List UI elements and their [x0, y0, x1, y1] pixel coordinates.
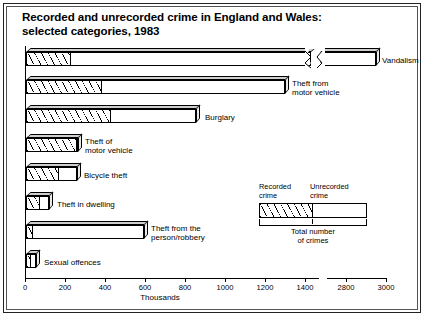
- x-tick-label-400: 400: [85, 283, 125, 292]
- plot-area: 0 200 400 600 800 1000 1200 1400 2800 30…: [0, 0, 427, 319]
- legend-swatch-box: [259, 203, 367, 218]
- x-tick-1000: [225, 278, 226, 282]
- label-line-2: person/robbery: [151, 233, 205, 242]
- bar-front-face: [26, 196, 49, 210]
- x-tick-1400: [305, 278, 306, 282]
- bar-label-bicycle-theft: Bicycle theft: [84, 171, 127, 180]
- bar-label-burglary: Burglary: [205, 113, 235, 122]
- segment-recorded: [27, 168, 59, 180]
- bar-front-face: [26, 52, 311, 66]
- segment-unrecorded: [33, 226, 143, 238]
- label-line-1: Theft from the: [151, 224, 201, 233]
- bar-front-face: [26, 254, 36, 268]
- bar-front-face: [26, 225, 144, 239]
- bar-theft-from-person-robbery: [26, 221, 144, 243]
- bar-vandalism-right: [320, 48, 376, 70]
- legend-label-recorded: Recorded crime: [259, 183, 307, 200]
- legend-total-brace: [259, 219, 367, 226]
- legend-recorded-line-2: crime: [259, 191, 277, 200]
- x-tick-600: [145, 278, 146, 282]
- x-axis-line-broken: [327, 278, 386, 279]
- x-tick-0: [25, 278, 26, 282]
- bar-theft-in-dwelling: [26, 192, 49, 214]
- segment-unrecorded: [111, 110, 195, 122]
- bar-label-theft-in-dwelling: Theft in dwelling: [57, 200, 115, 209]
- x-tick-400: [105, 278, 106, 282]
- x-tick-label-600: 600: [125, 283, 165, 292]
- legend-total-line-1: Total number: [291, 227, 335, 236]
- label-line-2: motor vehicle: [292, 88, 340, 97]
- label-line-1: Theft from: [292, 79, 328, 88]
- bar-right-face: [376, 47, 380, 66]
- bar-right-face: [144, 220, 148, 239]
- bar-label-theft-of-motor-vehicle: Theft of motor vehicle: [85, 137, 133, 156]
- x-tick-label-3000: 3000: [366, 283, 406, 292]
- x-tick-label-1400: 1400: [285, 283, 325, 292]
- x-tick-2800: [346, 278, 347, 282]
- legend-total-brace-tick: [312, 219, 313, 224]
- bar-right-face: [49, 191, 53, 210]
- segment-unrecorded: [40, 197, 48, 209]
- bar-bicycle-theft: [26, 163, 77, 185]
- segment-unrecorded: [102, 81, 284, 93]
- bar-label-sexual-offences: Sexual offences: [44, 258, 101, 267]
- x-tick-label-0: 0: [5, 283, 45, 292]
- segment-recorded: [27, 197, 40, 209]
- segment-recorded: [27, 139, 77, 151]
- bar-label-theft-from-person-robbery: Theft from the person/robbery: [151, 224, 205, 243]
- bar-front-face: [26, 80, 285, 94]
- x-tick-200: [65, 278, 66, 282]
- legend-label-unrecorded: Unrecorded crime: [310, 183, 366, 200]
- segment-unrecorded: [59, 168, 76, 180]
- legend-swatch-recorded: [260, 204, 313, 217]
- legend-swatch-unrecorded: [313, 204, 366, 217]
- bar-vandalism-left: [26, 48, 311, 70]
- x-tick-label-200: 200: [45, 283, 85, 292]
- bar-theft-from-motor-vehicle: [26, 76, 285, 98]
- segment-unrecorded: [71, 53, 310, 65]
- legend: Recorded crime Unrecorded crime Total nu…: [259, 183, 371, 202]
- bar-sexual-offences: [26, 250, 36, 272]
- x-axis-caption: Thousands: [0, 293, 320, 302]
- segment-recorded: [27, 81, 102, 93]
- legend-total-caption: Total number of crimes: [259, 228, 367, 246]
- bar-theft-of-motor-vehicle: [26, 134, 78, 156]
- label-line-2: motor vehicle: [85, 146, 133, 155]
- x-tick-800: [185, 278, 186, 282]
- x-axis-line-main: [25, 278, 319, 279]
- bar-right-face: [196, 104, 200, 123]
- chart-screenshot: Recorded and unrecorded crime in England…: [0, 0, 427, 319]
- bar-front-face: [26, 109, 196, 123]
- x-tick-3000: [386, 278, 387, 282]
- bar-front-face: [320, 52, 376, 66]
- bar-front-face: [26, 167, 77, 181]
- label-line-1: Theft of: [85, 137, 112, 146]
- bar-right-face: [77, 162, 81, 181]
- x-tick-label-1000: 1000: [205, 283, 245, 292]
- segment-recorded: [27, 53, 71, 65]
- legend-headings: Recorded crime Unrecorded crime: [259, 183, 371, 202]
- segment-recorded: [27, 110, 111, 122]
- legend-unrecorded-line-2: crime: [310, 191, 328, 200]
- x-tick-label-2800: 2800: [326, 283, 366, 292]
- bar-burglary: [26, 105, 196, 127]
- segment-unrecorded: [321, 53, 375, 65]
- segment-unrecorded: [31, 255, 35, 267]
- bar-right-face: [285, 75, 289, 94]
- bar-label-theft-from-motor-vehicle: Theft from motor vehicle: [292, 79, 340, 98]
- x-tick-label-800: 800: [165, 283, 205, 292]
- bar-front-face: [26, 138, 78, 152]
- bar-right-face: [36, 249, 40, 268]
- bar-break-zigzag-right: [316, 47, 325, 71]
- x-tick-label-1200: 1200: [245, 283, 285, 292]
- bar-right-face: [78, 133, 82, 152]
- bar-label-vandalism: Vandalism: [382, 56, 419, 65]
- x-tick-1200: [265, 278, 266, 282]
- legend-total-line-2: of crimes: [298, 236, 329, 245]
